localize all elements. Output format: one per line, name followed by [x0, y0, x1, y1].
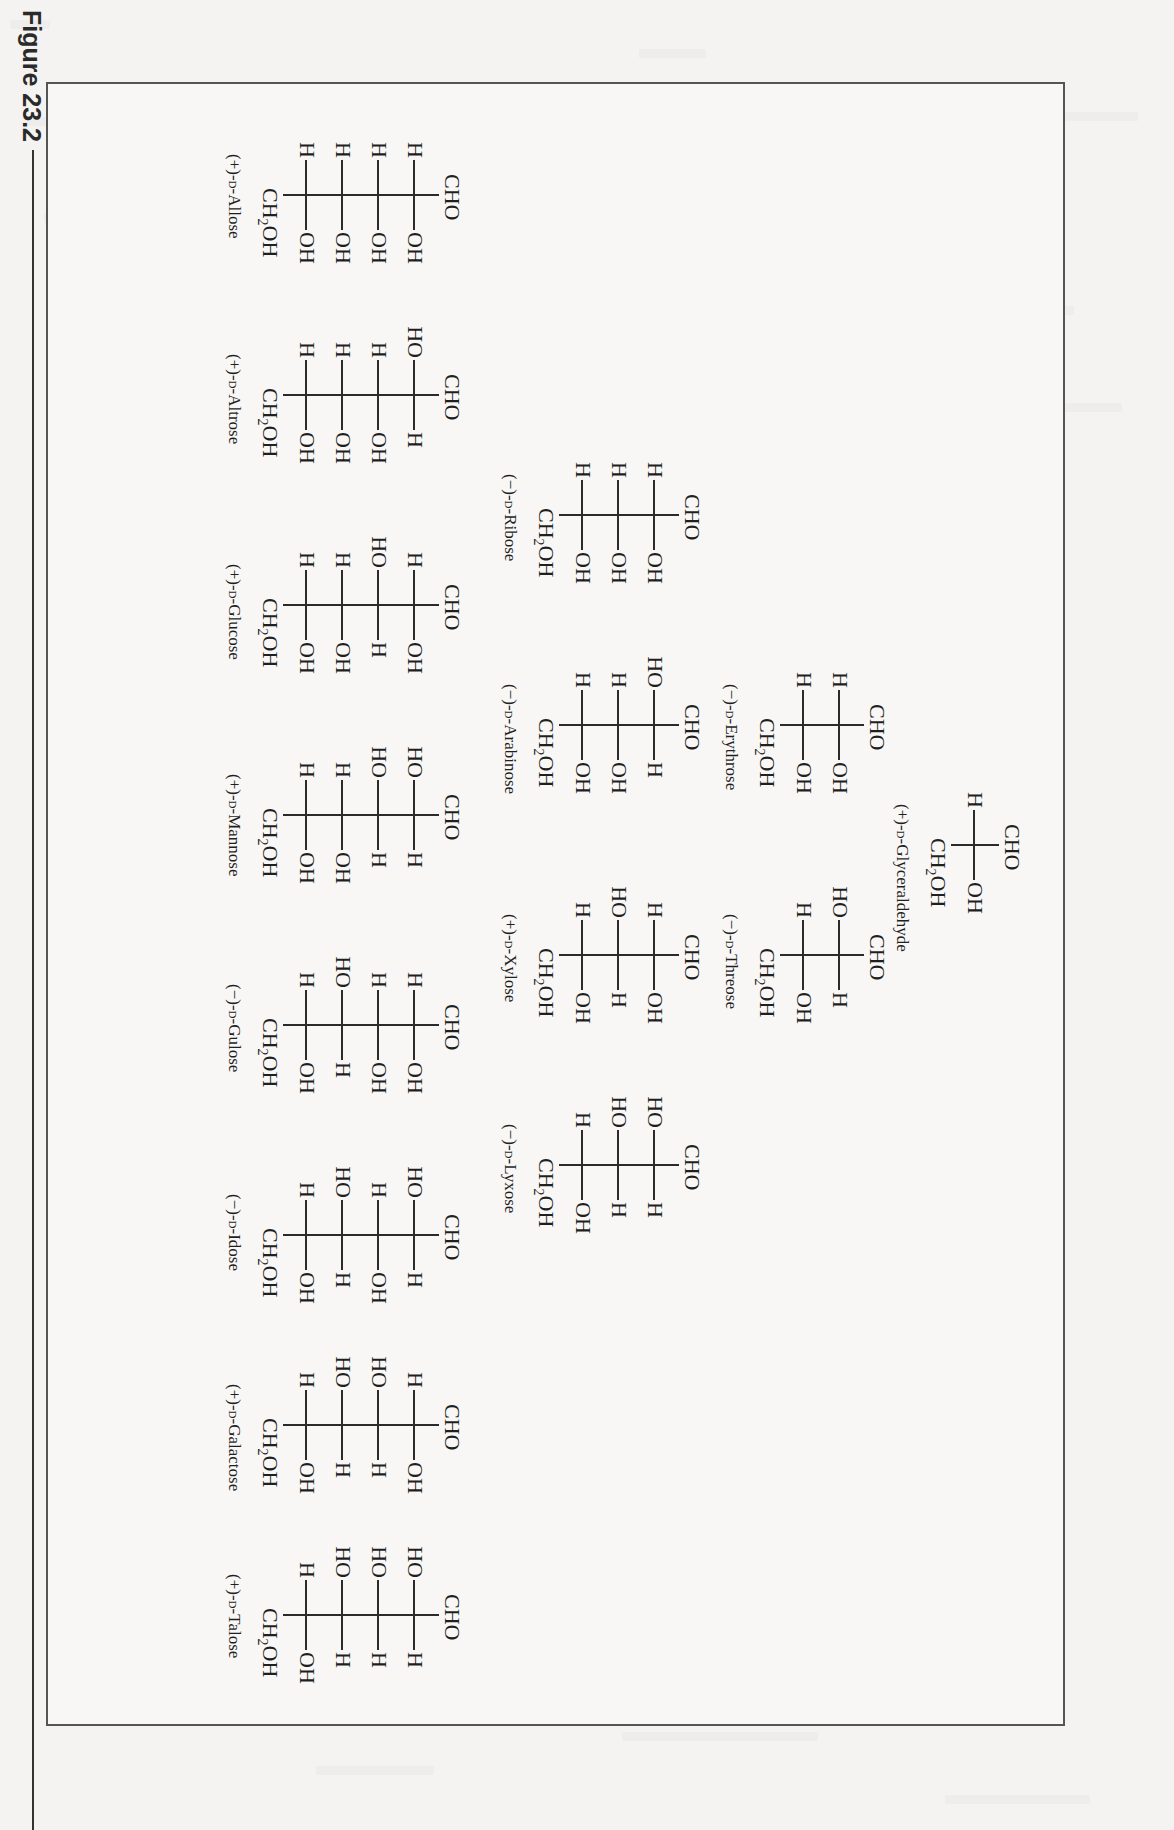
substituent-bond [377, 570, 379, 640]
left-substituent: HO [368, 536, 390, 568]
hydroxymethyl-group: CH2OH [752, 948, 778, 1017]
sugar-name-label: (+)-d-Glyceraldehyde [894, 804, 911, 952]
left-substituent: H [332, 552, 354, 568]
left-substituent: HO [404, 1166, 426, 1198]
sugar-name-label: (+)-d-Mannose [226, 774, 243, 877]
right-substituent: OH [368, 232, 390, 264]
substituent-bond [838, 690, 840, 760]
aldehyde-group: CHO [441, 174, 463, 220]
left-substituent: HO [332, 956, 354, 988]
right-substituent: H [404, 1272, 426, 1288]
aldehyde-group: CHO [866, 704, 888, 750]
right-substituent: OH [829, 762, 851, 794]
sugar-name-label: (+)-d-Galactose [226, 1384, 243, 1491]
left-substituent: HO [368, 1546, 390, 1578]
aldehyde-group: CHO [1001, 824, 1023, 870]
carbon-backbone [780, 724, 864, 726]
substituent-bond [802, 690, 804, 760]
right-substituent: OH [404, 1062, 426, 1094]
carbon-backbone [780, 954, 864, 956]
left-substituent: H [332, 142, 354, 158]
carbon-backbone [559, 1164, 679, 1166]
hydroxymethyl-group: CH2OH [255, 808, 281, 877]
right-substituent: OH [608, 552, 630, 584]
sugar-name-label: (−)-d-Threose [723, 914, 740, 1009]
substituent-bond [581, 920, 583, 990]
left-substituent: H [296, 342, 318, 358]
substituent-bond [413, 1200, 415, 1270]
substituent-bond [617, 1130, 619, 1200]
right-substituent: H [644, 1202, 666, 1218]
right-substituent: OH [572, 1202, 594, 1234]
figure-frame: CHOHOHCH2OH(+)-d-GlyceraldehydeCHOHOHHOH… [46, 82, 1065, 1726]
hydroxymethyl-group: CH2OH [531, 1158, 557, 1227]
caption-rule [32, 150, 34, 1830]
aldehyde-group: CHO [441, 794, 463, 840]
substituent-bond [377, 1390, 379, 1460]
substituent-bond [305, 990, 307, 1060]
sugar-name-label: (−)-d-Arabinose [502, 684, 519, 794]
carbon-backbone [559, 954, 679, 956]
left-substituent: H [368, 972, 390, 988]
aldehyde-group: CHO [866, 934, 888, 980]
aldehyde-group: CHO [441, 584, 463, 630]
substituent-bond [305, 1580, 307, 1650]
sugar-name-label: (+)-d-Xylose [502, 914, 519, 1002]
left-substituent: H [368, 1182, 390, 1198]
substituent-bond [377, 1200, 379, 1270]
right-substituent: H [829, 992, 851, 1008]
substituent-bond [341, 780, 343, 850]
hydroxymethyl-group: CH2OH [752, 718, 778, 787]
sugar-name-label: (+)-d-Talose [226, 1574, 243, 1658]
left-substituent: H [368, 142, 390, 158]
left-substituent: HO [644, 1096, 666, 1128]
hydroxymethyl-group: CH2OH [255, 1018, 281, 1087]
sugar-name-label: (−)-d-Gulose [226, 984, 243, 1072]
left-substituent: HO [829, 886, 851, 918]
right-substituent: OH [572, 552, 594, 584]
right-substituent: OH [572, 762, 594, 794]
right-substituent: H [404, 852, 426, 868]
carbon-backbone [559, 514, 679, 516]
right-substituent: OH [332, 232, 354, 264]
sugar-name-label: (−)-d-Erythrose [723, 684, 740, 790]
substituent-bond [341, 570, 343, 640]
right-substituent: OH [644, 992, 666, 1024]
sugar-name-label: (+)-d-Glucose [226, 564, 243, 660]
hydroxymethyl-group: CH2OH [255, 388, 281, 457]
substituent-bond [341, 1580, 343, 1650]
left-substituent: H [296, 972, 318, 988]
right-substituent: OH [296, 1462, 318, 1494]
left-substituent: H [404, 972, 426, 988]
left-substituent: H [404, 552, 426, 568]
left-substituent: H [608, 672, 630, 688]
left-substituent: H [296, 1562, 318, 1578]
right-substituent: OH [404, 642, 426, 674]
left-substituent: H [296, 762, 318, 778]
right-substituent: H [332, 1062, 354, 1078]
right-substituent: OH [296, 1062, 318, 1094]
substituent-bond [413, 1580, 415, 1650]
hydroxymethyl-group: CH2OH [255, 1418, 281, 1487]
substituent-bond [617, 690, 619, 760]
left-substituent: H [644, 462, 666, 478]
hydroxymethyl-group: CH2OH [531, 508, 557, 577]
substituent-bond [305, 160, 307, 230]
left-substituent: H [404, 1372, 426, 1388]
substituent-bond [377, 360, 379, 430]
left-substituent: H [829, 672, 851, 688]
right-substituent: H [332, 1462, 354, 1478]
substituent-bond [413, 360, 415, 430]
substituent-bond [305, 1200, 307, 1270]
hydroxymethyl-group: CH2OH [255, 1228, 281, 1297]
left-substituent: H [296, 1372, 318, 1388]
right-substituent: H [608, 992, 630, 1008]
left-substituent: H [296, 1182, 318, 1198]
left-substituent: HO [332, 1546, 354, 1578]
right-substituent: OH [368, 432, 390, 464]
sugar-name-label: (+)-d-Allose [226, 154, 243, 239]
substituent-bond [413, 570, 415, 640]
substituent-bond [413, 1390, 415, 1460]
right-substituent: H [332, 1272, 354, 1288]
